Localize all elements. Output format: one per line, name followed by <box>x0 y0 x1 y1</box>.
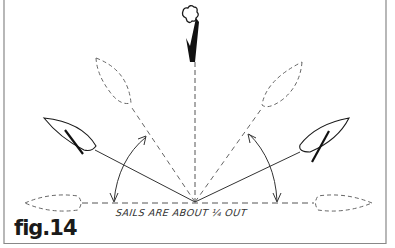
solid-boat-left <box>44 118 96 151</box>
dashed-boat-left-beam <box>25 195 81 211</box>
wind-arrow-icon <box>186 18 199 62</box>
close-hauled-right-line <box>195 108 262 202</box>
figure-caption: fig.14 <box>14 216 77 240</box>
dashed-boat-upper-right <box>262 62 302 107</box>
dashed-boat-right-beam <box>316 195 373 211</box>
reach-right-line <box>195 152 300 202</box>
sail-right <box>312 131 329 162</box>
sail-left <box>65 130 83 154</box>
dashed-boat-upper-left <box>96 58 131 104</box>
solid-boat-right <box>300 118 349 152</box>
close-hauled-left-line <box>130 105 195 202</box>
sail-trim-annotation: SAILS ARE ABOUT ¼ OUT <box>115 207 248 218</box>
angle-arc-left <box>110 136 146 202</box>
angle-arc-right <box>248 134 281 202</box>
